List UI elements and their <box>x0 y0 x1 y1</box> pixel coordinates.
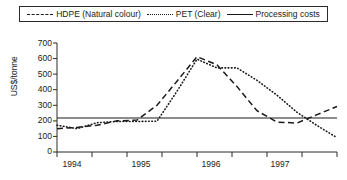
chart-figure: HDPE (Natural colour) PET (Clear) Proces… <box>0 0 347 180</box>
series-line-pet <box>57 59 337 137</box>
x-axis-ticks <box>57 152 337 157</box>
axis-lines <box>57 43 337 152</box>
y-axis-ticks <box>53 43 57 152</box>
chart-plot-area <box>0 0 347 180</box>
